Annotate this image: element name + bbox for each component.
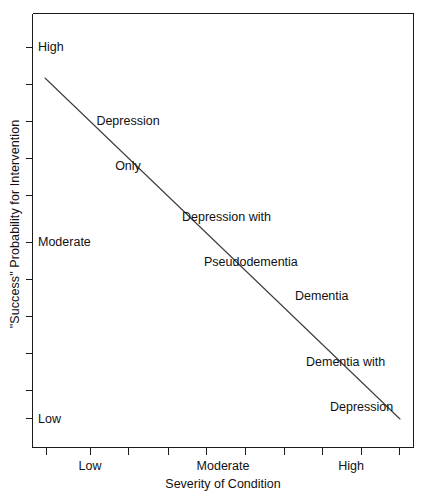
y-axis-ticks — [26, 48, 33, 419]
y-tick-label-high: High — [38, 40, 64, 54]
x-tick-label-moderate: Moderate — [197, 459, 250, 473]
annotation-dementia-depression-line1: Dementia with — [306, 355, 393, 370]
annotation-dementia-with-depression: Dementia with Depression — [306, 325, 393, 445]
annotation-depression-only: Depression Only — [96, 84, 159, 204]
annotation-pseudodementia-line2: Pseudodementia — [182, 255, 298, 270]
annotation-dementia: Dementia — [295, 259, 349, 334]
x-axis-title: Severity of Condition — [32, 477, 414, 491]
annotation-dementia-depression-line2: Depression — [306, 400, 393, 415]
annotation-pseudodementia-line1: Depression with — [182, 210, 298, 225]
annotation-dementia-line1: Dementia — [295, 289, 349, 304]
x-tick-label-high: High — [338, 459, 364, 473]
x-tick-label-low: Low — [79, 459, 102, 473]
x-axis-ticks — [47, 448, 400, 456]
annotation-depression-with-pseudodementia: Depression with Pseudodementia — [182, 180, 298, 300]
y-tick-label-low: Low — [38, 412, 61, 426]
chart-figure: "Success" Probability for Intervention — [0, 0, 428, 503]
annotation-depression-only-line1: Depression — [96, 114, 159, 129]
y-tick-label-moderate: Moderate — [38, 235, 91, 249]
annotation-depression-only-line2: Only — [96, 159, 159, 174]
